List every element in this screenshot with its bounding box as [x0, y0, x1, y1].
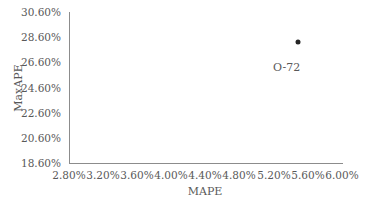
scatter-chart: 30.60% 28.60% 26.60% 24.60% 22.60% 20.60…	[0, 0, 368, 209]
x-tick: 6.00%	[325, 169, 358, 181]
x-tick: 4.40%	[188, 169, 221, 181]
x-tick: 4.00%	[154, 169, 187, 181]
data-point-label: O-72	[273, 61, 300, 74]
y-tick: 28.60%	[21, 31, 61, 43]
data-point-o72	[296, 40, 301, 45]
x-tick: 3.60%	[120, 169, 153, 181]
y-tick: 24.60%	[21, 82, 61, 94]
x-tick: 5.60%	[291, 169, 324, 181]
x-axis-line	[69, 163, 343, 164]
y-tick: 22.60%	[21, 107, 61, 119]
x-tick: 2.80%	[52, 169, 85, 181]
y-tick: 20.60%	[21, 132, 61, 144]
y-axis-line	[69, 12, 70, 164]
x-tick: 5.20%	[257, 169, 290, 181]
x-tick: 4.80%	[222, 169, 255, 181]
y-axis-title: MaxAPE	[12, 64, 25, 111]
y-tick: 18.60%	[21, 157, 61, 169]
y-tick: 30.60%	[21, 6, 61, 18]
x-tick: 3.20%	[86, 169, 119, 181]
y-tick: 26.60%	[21, 56, 61, 68]
x-axis-title: MAPE	[188, 185, 223, 198]
